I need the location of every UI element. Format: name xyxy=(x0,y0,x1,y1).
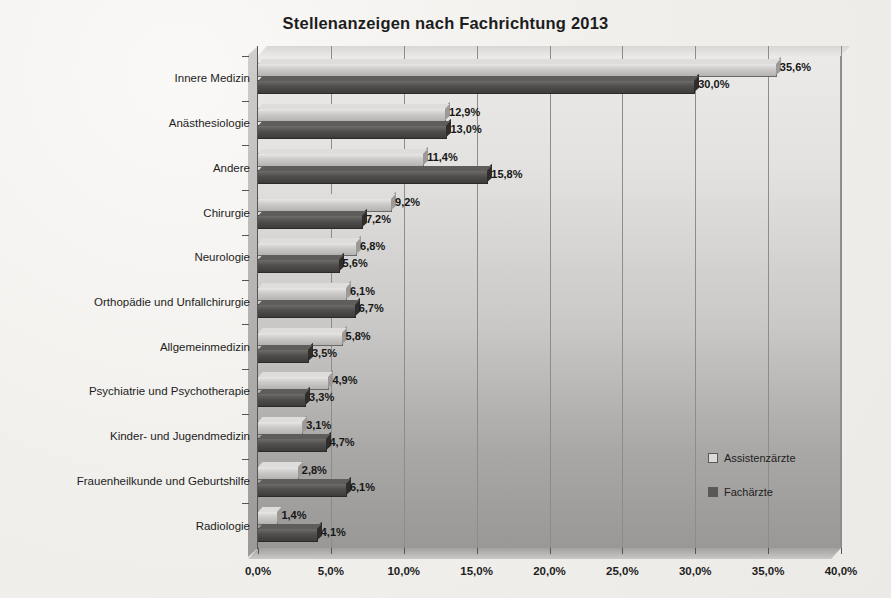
bar-value-label: 13,0% xyxy=(450,123,481,135)
category-label: Innere Medizin xyxy=(175,72,250,84)
bar-value-label: 30,0% xyxy=(698,78,729,90)
plot-area: 0,0%5,0%10,0%15,0%20,0%25,0%30,0%35,0%40… xyxy=(258,56,841,548)
x-tick-mark xyxy=(841,548,842,554)
bar-fachaerzte[interactable] xyxy=(258,349,309,363)
plot-wall-top xyxy=(258,46,850,56)
bar-fachaerzte[interactable] xyxy=(258,80,695,94)
y-tick-mark xyxy=(242,459,249,460)
bar-value-label: 4,7% xyxy=(330,436,355,448)
category-label: Orthopädie und Unfallchirurgie xyxy=(94,296,250,308)
y-tick-mark xyxy=(242,145,249,146)
bar-value-label: 4,1% xyxy=(321,526,346,538)
bar-value-label: 4,9% xyxy=(332,374,357,386)
legend-label: Fachärzte xyxy=(724,486,773,498)
bar-top-face xyxy=(258,211,366,216)
x-tick-label: 0,0% xyxy=(245,565,271,577)
bar-assistenzaerzte[interactable] xyxy=(258,198,392,212)
y-tick-mark xyxy=(242,414,249,415)
gridline xyxy=(550,46,551,548)
gridline xyxy=(695,46,696,548)
bar-value-label: 6,8% xyxy=(360,240,385,252)
x-tick-label: 35,0% xyxy=(752,565,785,577)
chart-legend: AssistenzärzteFachärzte xyxy=(708,452,796,520)
bar-fachaerzte[interactable] xyxy=(258,528,318,542)
gridline xyxy=(477,46,478,548)
bar-assistenzaerzte[interactable] xyxy=(258,153,424,167)
bar-value-label: 2,8% xyxy=(302,464,327,476)
bar-fachaerzte[interactable] xyxy=(258,215,363,229)
bar-top-face xyxy=(258,283,350,288)
bar-top-face xyxy=(258,345,313,350)
bar-top-face xyxy=(258,300,359,305)
legend-label: Assistenzärzte xyxy=(724,452,796,464)
x-tick-mark xyxy=(477,548,478,554)
bar-top-face xyxy=(258,149,428,154)
bar-assistenzaerzte[interactable] xyxy=(258,332,343,346)
y-tick-mark xyxy=(242,324,249,325)
category-label: Chirurgie xyxy=(203,207,250,219)
x-tick-label: 30,0% xyxy=(679,565,712,577)
gridline xyxy=(622,46,623,548)
category-label: Anästhesiologie xyxy=(169,117,250,129)
bar-fachaerzte[interactable] xyxy=(258,170,488,184)
category-label: Neurologie xyxy=(194,251,250,263)
legend-item[interactable]: Assistenzärzte xyxy=(708,452,796,464)
legend-swatch-icon xyxy=(708,453,718,463)
bar-value-label: 6,1% xyxy=(350,481,375,493)
bar-top-face xyxy=(258,194,396,199)
category-label: Frauenheilkunde und Geburtshilfe xyxy=(77,475,250,487)
x-tick-mark xyxy=(258,548,259,554)
bar-value-label: 5,8% xyxy=(346,330,371,342)
y-tick-mark xyxy=(242,235,249,236)
bar-assistenzaerzte[interactable] xyxy=(258,108,446,122)
x-tick-label: 40,0% xyxy=(825,565,858,577)
bar-value-label: 35,6% xyxy=(780,61,811,73)
y-tick-mark xyxy=(242,369,249,370)
category-label: Andere xyxy=(213,162,250,174)
y-tick-mark xyxy=(242,190,249,191)
bar-assistenzaerzte[interactable] xyxy=(258,287,347,301)
bar-top-face xyxy=(258,507,282,512)
x-tick-label: 20,0% xyxy=(533,565,566,577)
legend-item[interactable]: Fachärzte xyxy=(708,486,796,498)
bar-value-label: 6,1% xyxy=(350,285,375,297)
bar-top-face xyxy=(258,389,310,394)
bar-top-face xyxy=(258,255,343,260)
bar-value-label: 6,7% xyxy=(359,302,384,314)
bar-top-face xyxy=(258,462,302,467)
bar-top-face xyxy=(258,59,780,64)
bar-top-face xyxy=(258,524,321,529)
bar-value-label: 7,2% xyxy=(366,213,391,225)
bar-fachaerzte[interactable] xyxy=(258,304,356,318)
bar-top-face xyxy=(258,479,350,484)
x-tick-label: 25,0% xyxy=(606,565,639,577)
category-label: Psychiatrie und Psychotherapie xyxy=(89,385,250,397)
bar-value-label: 11,4% xyxy=(427,151,458,163)
bar-fachaerzte[interactable] xyxy=(258,483,347,497)
x-tick-mark xyxy=(622,548,623,554)
bar-top-face xyxy=(258,166,492,171)
bar-fachaerzte[interactable] xyxy=(258,125,447,139)
bar-assistenzaerzte[interactable] xyxy=(258,466,299,480)
y-tick-mark xyxy=(242,503,249,504)
bar-top-face xyxy=(258,121,451,126)
bar-top-face xyxy=(258,328,346,333)
bar-value-label: 3,3% xyxy=(309,391,334,403)
plot-wall-floor xyxy=(248,548,841,559)
x-tick-mark xyxy=(768,548,769,554)
y-tick-mark xyxy=(242,56,249,57)
gridline xyxy=(841,46,842,548)
bar-value-label: 1,4% xyxy=(281,509,306,521)
bar-fachaerzte[interactable] xyxy=(258,393,306,407)
x-tick-label: 10,0% xyxy=(387,565,420,577)
x-tick-mark xyxy=(695,548,696,554)
category-label: Allgemeinmedizin xyxy=(160,341,250,353)
y-tick-mark xyxy=(242,280,249,281)
bar-top-face xyxy=(258,372,333,377)
bar-fachaerzte[interactable] xyxy=(258,438,327,452)
category-label: Radiologie xyxy=(196,520,250,532)
chart-page: Stellenanzeigen nach Fachrichtung 2013 0… xyxy=(0,0,891,598)
bar-fachaerzte[interactable] xyxy=(258,259,340,273)
bar-assistenzaerzte[interactable] xyxy=(258,511,278,525)
bar-top-face xyxy=(258,76,699,81)
